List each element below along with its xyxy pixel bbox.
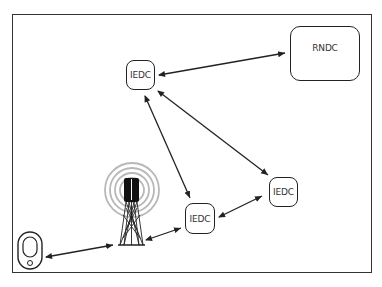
cell-tower-icon [118, 178, 145, 245]
edge-iedc-top-rndc [159, 53, 285, 75]
mobile-device-icon [18, 232, 42, 269]
edge-tower-iedc-mid [146, 228, 181, 240]
iedc-top-label: IEDC [130, 70, 151, 80]
edge-iedc-mid-iedc-right [219, 196, 262, 217]
iedc-right-node: IEDC [269, 177, 298, 207]
edge-iedc-top-iedc-mid [145, 96, 190, 198]
rndc-label: RNDC [312, 43, 337, 53]
iedc-top-node: IEDC [126, 60, 155, 90]
rndc-node: RNDC [290, 26, 360, 81]
iedc-mid-label: IEDC [190, 214, 211, 224]
iedc-mid-node: IEDC [185, 203, 215, 234]
edge-device-tower [46, 245, 113, 257]
iedc-right-label: IEDC [273, 187, 294, 197]
